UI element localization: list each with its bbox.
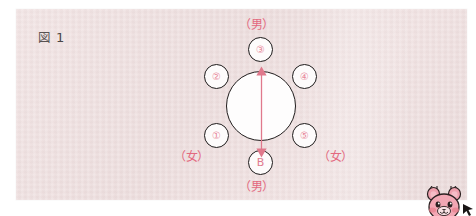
gender-label-bottom: （男） <box>239 181 274 193</box>
seat-node-4: ④ <box>292 64 317 89</box>
seat-node-b: B <box>248 150 273 175</box>
seat-node-1: ① <box>204 123 229 148</box>
seat-node-3-label: ③ <box>256 44 265 54</box>
seat-node-2-label: ② <box>212 71 221 81</box>
seat-node-2: ② <box>204 64 229 89</box>
figure-caption-glyph: 図 <box>38 32 52 45</box>
seat-node-5-label: ⑤ <box>300 130 309 140</box>
gender-label-left: （女） <box>174 151 209 163</box>
seat-node-4-label: ④ <box>300 71 309 81</box>
seat-node-1-label: ① <box>212 130 221 140</box>
figure-caption-number: 1 <box>56 31 65 44</box>
seat-node-5: ⑤ <box>292 123 317 148</box>
figure-panel: 図1 （男） （男） （女） （女） ③ ② <box>16 9 467 200</box>
page-root: 図1 （男） （男） （女） （女） ③ ② <box>0 0 476 216</box>
seat-node-3: ③ <box>248 37 273 62</box>
gender-label-right: （女） <box>318 151 353 163</box>
center-table-circle <box>226 71 296 141</box>
gender-label-top: （男） <box>239 19 274 31</box>
mascot-pointer-icon <box>462 202 476 216</box>
seat-node-b-label: B <box>257 157 265 168</box>
figure-caption: 図1 <box>38 31 65 45</box>
seating-diagram: （男） （男） （女） （女） ③ ② ④ <box>166 29 356 199</box>
